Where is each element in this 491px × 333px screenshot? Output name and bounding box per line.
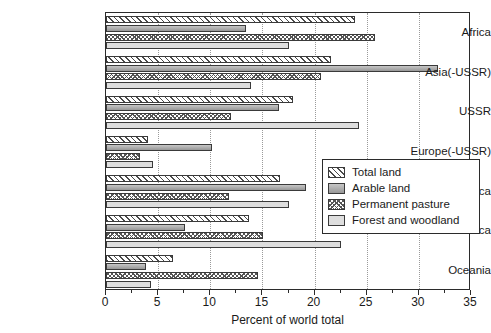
legend-item-permanent-pasture: Permanent pasture xyxy=(328,196,475,212)
legend-swatch-forest-and-woodland-icon xyxy=(328,215,345,226)
bar-forest-and-woodland xyxy=(106,281,151,288)
bar-forest-and-woodland xyxy=(106,42,289,49)
bar-permanent-pasture xyxy=(106,34,375,41)
bar-total-land xyxy=(106,255,173,262)
bar-arable-land xyxy=(106,184,306,191)
legend-label-permanent-pasture: Permanent pasture xyxy=(352,198,450,210)
bar-row xyxy=(106,82,471,89)
category-label-africa: Africa xyxy=(391,26,491,38)
legend-label-total-land: Total land xyxy=(352,166,401,178)
bar-forest-and-woodland xyxy=(106,161,153,168)
bar-total-land xyxy=(106,16,355,23)
bar-row xyxy=(106,281,471,288)
bar-row xyxy=(106,96,471,103)
bar-chart: AfricaAsia(-USSR)USSREurope(-USSR)N and … xyxy=(0,0,491,333)
bar-arable-land xyxy=(106,104,279,111)
x-axis-minor-tick-mark xyxy=(183,290,184,293)
bar-permanent-pasture xyxy=(106,272,258,279)
bar-permanent-pasture xyxy=(106,73,321,80)
x-axis-tick-label: 10 xyxy=(189,296,229,309)
bar-permanent-pasture xyxy=(106,232,263,239)
bar-arable-land xyxy=(106,224,185,231)
bar-permanent-pasture xyxy=(106,113,231,120)
legend-item-total-land: Total land xyxy=(328,164,475,180)
bar-forest-and-woodland xyxy=(106,122,359,129)
category-label-ussr: USSR xyxy=(391,105,491,117)
bar-permanent-pasture xyxy=(106,193,229,200)
x-axis-minor-tick-mark xyxy=(235,290,236,293)
bar-forest-and-woodland xyxy=(106,82,251,89)
bar-row xyxy=(106,56,471,63)
category-label-europe-ussr: Europe(-USSR) xyxy=(391,145,491,157)
legend-item-arable-land: Arable land xyxy=(328,180,475,196)
bar-arable-land xyxy=(106,65,438,72)
bar-row xyxy=(106,136,471,143)
x-axis-minor-tick-mark xyxy=(444,290,445,293)
bar-total-land xyxy=(106,136,148,143)
x-axis-minor-tick-mark xyxy=(288,290,289,293)
bar-row xyxy=(106,16,471,23)
bar-total-land xyxy=(106,96,293,103)
x-axis-tick-label: 25 xyxy=(346,296,386,309)
x-axis-tick-label: 0 xyxy=(85,296,125,309)
legend-item-forest-and-woodland: Forest and woodland xyxy=(328,212,475,228)
bar-total-land xyxy=(106,56,331,63)
legend: Total land Arable land Permanent pasture… xyxy=(322,159,480,234)
x-axis-minor-tick-mark xyxy=(340,290,341,293)
x-axis-tick-label: 20 xyxy=(294,296,334,309)
bar-total-land xyxy=(106,215,249,222)
category-label-oceania: Oceania xyxy=(391,264,491,276)
x-axis-tick-label: 5 xyxy=(137,296,177,309)
bar-row xyxy=(106,241,471,248)
x-axis-minor-tick-mark xyxy=(392,290,393,293)
category-label-asia-ussr: Asia(-USSR) xyxy=(391,66,491,78)
bar-arable-land xyxy=(106,25,246,32)
bar-permanent-pasture xyxy=(106,153,140,160)
legend-swatch-permanent-pasture-icon xyxy=(328,199,345,210)
bar-row xyxy=(106,122,471,129)
x-axis-tick-label: 15 xyxy=(241,296,281,309)
bar-arable-land xyxy=(106,263,146,270)
x-axis-tick-label: 35 xyxy=(450,296,490,309)
bar-total-land xyxy=(106,175,280,182)
legend-swatch-arable-land-icon xyxy=(328,183,345,194)
x-axis-tick-label: 30 xyxy=(398,296,438,309)
bar-row xyxy=(106,255,471,262)
legend-label-arable-land: Arable land xyxy=(352,182,410,194)
bar-forest-and-woodland xyxy=(106,201,289,208)
bar-arable-land xyxy=(106,144,212,151)
bar-forest-and-woodland xyxy=(106,241,341,248)
x-axis-minor-tick-mark xyxy=(131,290,132,293)
x-axis-title: Percent of world total xyxy=(105,313,470,327)
legend-label-forest-and-woodland: Forest and woodland xyxy=(352,214,459,226)
legend-swatch-total-land-icon xyxy=(328,167,345,178)
bar-row xyxy=(106,42,471,49)
